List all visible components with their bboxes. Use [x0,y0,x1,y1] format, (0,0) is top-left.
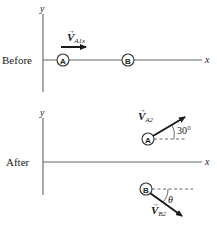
after-y-axis-label: y [39,107,45,118]
after-label: After [6,156,30,168]
angle-arc-a [172,125,174,139]
after-panel: y x After 30° VA2 → A θ VB2 → B [6,106,210,218]
svg-text:A: A [60,57,66,66]
particle-b-after: B [140,183,152,195]
vector-arrow-icon: → [139,106,146,114]
angle-b-label: θ [168,194,173,205]
particle-a-before: A [57,54,69,66]
collision-diagram: y x Before VA1x → A B y x After 30° VA2 … [0,0,217,226]
before-x-axis-label: x [204,54,210,65]
vector-arrow-icon: → [68,27,75,35]
svg-text:B: B [143,186,149,195]
svg-text:B: B [125,57,131,66]
particle-a-after: A [142,133,154,145]
after-x-axis-label: x [204,156,210,167]
before-panel: y x Before VA1x → A B [2,3,210,92]
angle-a-label: 30° [177,125,191,136]
vector-arrow-icon: → [152,200,159,208]
before-label: Before [2,54,32,66]
svg-text:A: A [145,136,151,145]
before-y-axis-label: y [39,3,45,14]
particle-b-before: B [122,54,134,66]
